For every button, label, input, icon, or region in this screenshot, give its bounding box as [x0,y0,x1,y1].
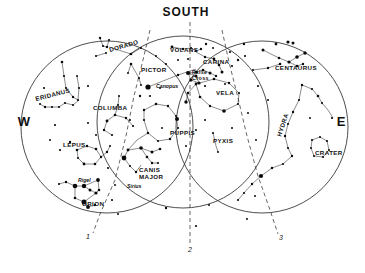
star-point [187,92,189,94]
star-point [257,85,259,87]
orion-body [75,180,99,202]
star-point [287,123,289,125]
star-point [146,156,149,159]
hydra-tail [261,156,292,176]
constellation-label-centaurus: CENTAURUS [275,64,317,71]
star-point [301,84,303,86]
star-point [231,127,233,129]
centaurus-line [263,50,305,62]
star-point [224,83,226,85]
star-point [106,120,109,123]
star-point [140,47,142,49]
star-point [58,183,60,185]
star-point [114,184,116,186]
star-point [217,151,219,153]
star-point [59,149,61,151]
star-point [107,167,109,169]
star-point [135,171,137,173]
star-point [213,78,216,81]
star-point [139,95,141,97]
star-label-canopus: Canopus [156,83,178,89]
puppis-tail [124,133,148,158]
star-point [237,103,239,105]
star-point [102,45,104,47]
star-point [205,43,207,45]
star-point [212,132,214,134]
star-point [129,119,131,121]
star-point [209,105,211,107]
star-point [286,40,289,43]
star-point [76,149,79,152]
star-point [259,174,263,178]
star-point [138,77,140,79]
star-point [298,99,300,101]
star-point [151,151,154,154]
star-point [87,85,89,87]
constellation-label-canis: CANIS [139,166,160,173]
star-point [252,69,254,71]
star-point [284,135,286,137]
star-point [77,157,79,159]
star-point [54,124,56,126]
star-point [132,125,134,127]
constellation-label-orion: ORION [82,200,104,207]
star-point [310,147,312,149]
axis-marker-1: 1 [86,233,90,240]
star-point [212,47,214,49]
canismajor-body [141,148,158,163]
star-point [155,55,157,57]
cardinal-label-w: W [18,114,31,129]
star-point [96,178,100,182]
star-point [177,59,179,61]
star-point [204,85,206,87]
star-point [65,181,67,183]
star-point [157,162,159,164]
star-point [254,195,256,197]
star-point [159,148,162,151]
star-label-rigel: Rigel [78,177,91,183]
canismajor-top [128,148,160,152]
star-point [208,204,210,206]
star-point [143,109,145,111]
star-point [267,67,269,69]
star-point [94,163,97,166]
star-point [317,95,320,98]
star-point [197,81,200,84]
star-point [109,145,111,147]
star-label-sirius: Sirius [127,183,142,189]
star-point [237,199,239,201]
star-point [311,88,313,90]
star-point [86,145,88,147]
star-point [177,74,179,76]
star-point [143,119,145,121]
star-point [322,156,324,158]
star-point [43,87,45,89]
star-point [73,184,78,189]
star-point [331,117,333,119]
star-point [287,147,289,149]
star-point [175,117,179,121]
star-point [292,42,295,45]
star-point [64,102,66,104]
star-point [282,163,284,165]
constellation-label-crater: CRATER [315,149,343,156]
star-point [130,63,133,66]
east-arc [322,103,333,118]
star-point [77,99,79,101]
star-point [165,207,167,209]
star-point [185,145,187,147]
lepus-poly [77,146,101,164]
star-point [275,43,278,46]
star-point [99,37,101,39]
star-point [78,87,80,89]
star-point [247,112,249,114]
star-point [195,129,197,131]
hydra-chain [285,85,302,156]
columba-low [104,121,112,135]
star-point [95,134,97,136]
axis-marker-3: 3 [279,234,283,241]
star-point [49,139,51,141]
star-point [311,139,313,141]
star-point [149,95,151,97]
cardinal-label-e: E [337,114,346,129]
